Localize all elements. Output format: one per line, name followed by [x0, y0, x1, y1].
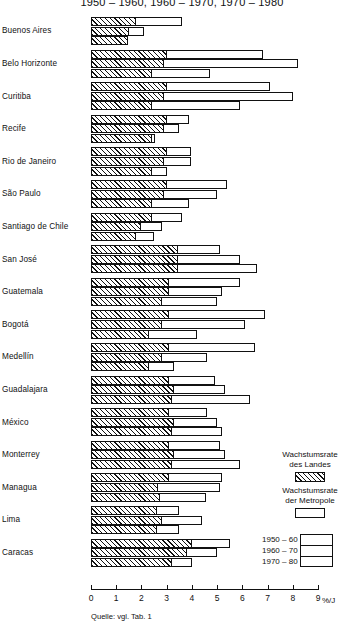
x-axis-tick-label: 3 [164, 593, 169, 603]
category-label: Caracas [2, 548, 88, 557]
bar-segment-country [91, 50, 167, 59]
category-label: Medellín [2, 352, 88, 361]
category-label: Recife [2, 124, 88, 133]
category-label: Bogotá [2, 320, 88, 329]
bar-segment-country [91, 450, 174, 459]
legend-period-2: 1960 – 70 [262, 545, 298, 556]
bar-segment-country [91, 506, 157, 515]
bar-segment-country [91, 548, 187, 557]
bar-segment-country [91, 539, 192, 548]
category-label: Curitiba [2, 92, 88, 101]
bar-segment-country [91, 199, 152, 208]
bar-group [91, 408, 318, 437]
x-axis-tick [91, 585, 92, 590]
bar-segment-country [91, 180, 167, 189]
bar-segment-country [91, 222, 141, 231]
category-label: Managua [2, 483, 88, 492]
bar-segment-country [91, 134, 152, 143]
legend-swatch-metro [295, 508, 325, 518]
x-axis-tick [318, 585, 319, 590]
bar-segment-country [91, 320, 162, 329]
category-label: Belo Horizonte [2, 59, 88, 68]
bar-segment-country [91, 376, 169, 385]
bar-segment-country [91, 124, 164, 133]
legend-period-3: 1970 – 80 [262, 556, 298, 567]
legend-metro-label: Wachstumsrate der Metropole [258, 486, 362, 506]
bar-segment-country [91, 255, 178, 264]
bar-group [91, 115, 318, 144]
bar-segment-country [91, 17, 136, 26]
bar-segment-country [91, 516, 162, 525]
bar-group [91, 310, 318, 339]
legend-period-box [300, 534, 333, 567]
category-label: Lima [2, 515, 88, 524]
bar-segment-country [91, 493, 160, 502]
bar-segment-country [91, 441, 169, 450]
bar-segment-country [91, 264, 178, 273]
bar-segment-country [91, 232, 136, 241]
source-note: Quelle: vgl. Tab. 1 [91, 612, 152, 621]
category-label: México [2, 418, 88, 427]
bar-segment-country [91, 427, 172, 436]
bar-segment-country [91, 101, 152, 110]
category-label: Monterrey [2, 450, 88, 459]
x-axis-tick-label: 2 [139, 593, 144, 603]
category-label: Buenos Aires [2, 26, 88, 35]
bar-group [91, 343, 318, 372]
legend-metro-line1: Wachstumsrate [282, 486, 337, 495]
bar-segment-country [91, 82, 167, 91]
bar-group [91, 245, 318, 274]
chart-title: 1950 – 1960, 1960 – 1970, 1970 – 1980 [0, 0, 364, 8]
bar-segment-country [91, 330, 149, 339]
bar-segment-country [91, 59, 164, 68]
bar-segment-country [91, 297, 162, 306]
bar-segment-country [91, 36, 128, 45]
x-axis-tick-label: 8 [290, 593, 295, 603]
x-axis-tick [217, 585, 218, 590]
bar-segment-country [91, 92, 164, 101]
x-axis-tick-label: 9 [316, 593, 321, 603]
bar-segment-country [91, 167, 152, 176]
x-axis-tick-label: 4 [190, 593, 195, 603]
x-axis-tick [242, 585, 243, 590]
x-axis-tick-label: 5 [215, 593, 220, 603]
x-axis-tick-label: 7 [265, 593, 270, 603]
bar-segment-country [91, 115, 167, 124]
bar-segment-country [91, 408, 169, 417]
x-axis-tick [192, 585, 193, 590]
bar-group [91, 82, 318, 111]
legend-country-line2: des Landes [289, 460, 330, 469]
bar-group [91, 180, 318, 209]
bar-segment-country [91, 278, 169, 287]
bar-group [91, 376, 318, 405]
bar-group [91, 147, 318, 176]
legend-period-1: 1950 – 60 [262, 534, 298, 545]
bar-segment-country [91, 310, 169, 319]
bar-segment-country [91, 418, 174, 427]
legend-period-divider-1 [301, 545, 332, 546]
bar-segment-country [91, 147, 167, 156]
bar-segment-country [91, 190, 164, 199]
legend-period-divider-2 [301, 556, 332, 557]
legend-periods: 1950 – 60 1960 – 70 1970 – 80 [262, 534, 333, 567]
legend-swatch-country [295, 472, 325, 482]
bar-segment-country [91, 395, 172, 404]
category-label: San José [2, 255, 88, 264]
bar-segment-country [91, 287, 169, 296]
x-axis-tick [167, 585, 168, 590]
bar-segment-country [91, 157, 164, 166]
x-axis-tick-label: 1 [114, 593, 119, 603]
category-label: Guadalajara [2, 385, 88, 394]
category-label: Guatemala [2, 287, 88, 296]
legend-country-line1: Wachstumsrate [282, 450, 337, 459]
bar-segment-country [91, 473, 169, 482]
x-axis-tick [116, 585, 117, 590]
bar-segment-country [91, 483, 158, 492]
x-axis-tick-label: 6 [240, 593, 245, 603]
x-axis-tick-label: 0 [89, 593, 94, 603]
bar-segment-country [91, 558, 172, 567]
x-axis-line [91, 589, 318, 590]
chart-root: 1950 – 1960, 1960 – 1970, 1970 – 1980 Bu… [0, 0, 364, 628]
x-axis-unit-label: %/J [322, 596, 335, 605]
category-label: Santiago de Chile [2, 222, 88, 231]
